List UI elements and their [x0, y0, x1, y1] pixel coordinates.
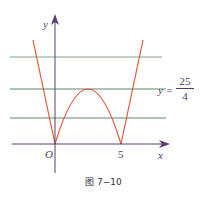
figure-caption: 图 7−10 [0, 175, 207, 188]
curve-right-branch [121, 40, 143, 144]
curve-left-branch [33, 40, 55, 144]
fraction-denominator: 4 [176, 89, 194, 102]
y-axis-label: y [43, 19, 48, 30]
fraction-numerator: 25 [176, 75, 194, 89]
curve-hump [55, 89, 121, 144]
x-tick-label-5: 5 [118, 149, 124, 160]
peak-line-lhs: y = [158, 84, 173, 96]
x-axis-label: x [158, 150, 163, 161]
peak-line-equation: y = [158, 84, 173, 96]
peak-line-fraction: 25 4 [176, 75, 194, 102]
origin-label: O [45, 149, 53, 160]
